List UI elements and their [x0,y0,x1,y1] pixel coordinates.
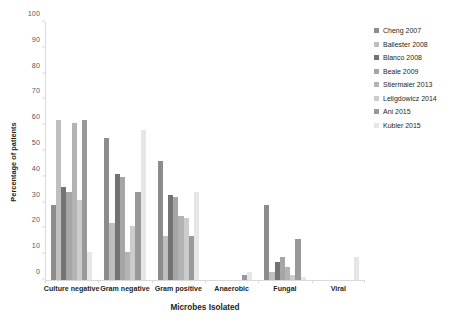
x-axis-tick-mark [205,280,206,283]
bar-group: Gram negative [98,22,151,280]
y-axis-tick-label: 70 [32,86,45,95]
x-axis-tick-label: Viral [331,285,346,293]
bar-group: Viral [312,22,365,280]
legend-item[interactable]: Kubler 2015 [374,119,469,133]
x-axis-tick-mark [364,280,365,283]
x-axis-tick-label: Anaerobic [214,285,249,293]
y-axis-tick-label: 50 [32,138,45,147]
bar-group-bars [318,22,360,280]
y-axis-tick-label: 0 [36,267,45,276]
y-axis-tick-label: 90 [32,34,45,43]
bar [301,277,306,280]
x-axis-tick-label: Fungal [273,285,296,293]
bar-groups: Culture negativeGram negativeGram positi… [45,22,365,280]
x-axis-tick-mark [98,280,99,283]
bar [87,252,92,280]
x-axis-tick-label: Gram negative [100,285,149,293]
bar-group: Culture negative [45,22,98,280]
legend-swatch-icon [374,109,379,114]
y-axis-tick-label: 40 [32,163,45,172]
bar [354,257,359,280]
legend-label: Ballester 2008 [383,41,428,48]
legend-item[interactable]: Ballester 2008 [374,38,469,52]
y-axis-tick-label: 60 [32,112,45,121]
bar-group-bars [104,22,146,280]
legend-swatch-icon [374,96,379,101]
bar [264,205,269,280]
legend-label: Cheng 2007 [383,27,421,34]
bar-group-bars [264,22,306,280]
plot-area: 0102030405060708090100 Culture negativeG… [45,22,365,280]
bar-group: Gram positive [152,22,205,280]
y-axis-tick-label: 20 [32,215,45,224]
x-axis-tick-mark [152,280,153,283]
bar-group: Anaerobic [205,22,258,280]
bar-chart: Percentage of patients 01020304050607080… [0,0,471,323]
x-axis-tick-label: Gram positive [155,285,202,293]
legend-item[interactable]: Blanco 2008 [374,51,469,65]
legend-label: Ani 2015 [383,108,411,115]
legend-swatch-icon [374,69,379,74]
x-axis-tick-mark [45,280,46,283]
legend-label: Leligdowicz 2014 [383,95,437,102]
bar [141,130,146,280]
x-axis-tick-mark [312,280,313,283]
legend-swatch-icon [374,42,379,47]
legend-item[interactable]: Beale 2009 [374,65,469,79]
legend-label: Kubler 2015 [383,122,421,129]
legend-label: Blanco 2008 [383,54,422,61]
bar-group-bars [211,22,253,280]
legend-swatch-icon [374,28,379,33]
y-axis-tick-label: 80 [32,60,45,69]
bar-group-bars [51,22,93,280]
y-axis-tick-label: 100 [28,9,45,18]
legend-swatch-icon [374,82,379,87]
chart-legend: Cheng 2007Ballester 2008Blanco 2008Beale… [374,24,469,132]
bar-group: Fungal [258,22,311,280]
legend-swatch-icon [374,123,379,128]
legend-label: Beale 2009 [383,68,418,75]
x-axis-tick-mark [258,280,259,283]
legend-item[interactable]: Cheng 2007 [374,24,469,38]
x-axis-title: Microbes Isolated [45,303,365,312]
legend-item[interactable]: Leligdowicz 2014 [374,92,469,106]
y-axis-tick-label: 30 [32,189,45,198]
bar [247,272,252,280]
bar [295,239,300,280]
legend-item[interactable]: Ani 2015 [374,105,469,119]
y-axis-title: Percentage of patients [9,102,18,222]
bar [194,192,199,280]
legend-item[interactable]: Stiermaier 2013 [374,78,469,92]
y-axis-tick-label: 10 [32,241,45,250]
bar-group-bars [158,22,200,280]
legend-swatch-icon [374,55,379,60]
x-axis-tick-label: Culture negative [44,285,100,293]
legend-label: Stiermaier 2013 [383,81,432,88]
